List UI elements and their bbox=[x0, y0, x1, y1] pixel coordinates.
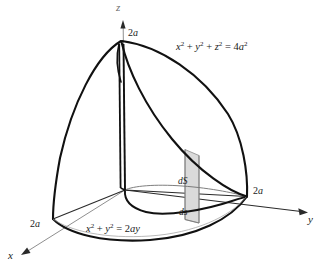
y-axis-arrowhead bbox=[298, 208, 308, 215]
sphere-group bbox=[53, 41, 247, 241]
base-radius-x bbox=[53, 190, 125, 219]
x-axis-tick-label: 2a bbox=[30, 219, 40, 229]
viviani-curve-figure: z 2a y 2a x 2a x2 + y2 + z2 = 4a2 x2 + y… bbox=[0, 0, 321, 268]
y-axis-tick-label: 2a bbox=[253, 186, 263, 196]
y-axis-label: y bbox=[308, 214, 313, 225]
x-axis-arrowhead bbox=[21, 248, 31, 255]
viviani-intersection-curve bbox=[122, 42, 248, 197]
surface-element-label: dS bbox=[178, 177, 188, 187]
y-axis-line bbox=[125, 190, 301, 212]
z-axis-tick-label: 2a bbox=[128, 28, 138, 38]
arc-element-label: ds bbox=[179, 208, 187, 218]
sphere-equation-label: x2 + y2 + z2 = 4a2 bbox=[176, 42, 247, 53]
sphere-meridian-xz-arc bbox=[53, 41, 121, 219]
x-axis-label: x bbox=[8, 250, 13, 261]
cylinder-equation-label: x2 + y2 = 2ay bbox=[86, 224, 140, 235]
diagram-canvas bbox=[0, 0, 321, 268]
z-axis-label: z bbox=[116, 2, 120, 13]
z-axis-arrowhead bbox=[120, 20, 125, 29]
cylinder-ruling-left bbox=[124, 44, 126, 190]
cylinder-ruling-left-2 bbox=[119, 44, 120, 188]
